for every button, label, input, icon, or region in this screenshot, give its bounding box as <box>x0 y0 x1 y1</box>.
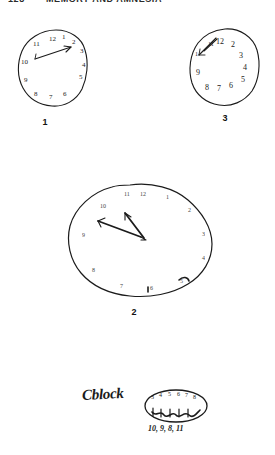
clock2-num-6: 6 <box>150 285 153 291</box>
clock-drawing-3: 12 2 3 4 5 6 7 8 9 1 11 <box>183 22 269 118</box>
clock3-num-5: 5 <box>241 75 245 84</box>
clock2-num-10: 10 <box>100 203 106 209</box>
oval-num-3: 3 <box>151 394 154 400</box>
running-header: 128 MEMORY AND AMNESIA <box>8 0 208 6</box>
clock3-num-10: 1 <box>195 51 198 57</box>
clock1-num-7: 7 <box>49 93 53 101</box>
clock2-num-4: 4 <box>202 255 205 261</box>
clock-drawing-2: 12 11 10 9 8 7 6 5 4 3 2 1 <box>62 180 218 305</box>
clock1-num-11: 11 <box>33 40 40 48</box>
oval-num-8: 8 <box>193 394 196 400</box>
annotation-oval-clock: 3 4 5 6 7 8 <box>142 386 212 428</box>
clock2-num-3: 3 <box>202 231 205 237</box>
clock3-num-9: 9 <box>196 68 200 77</box>
clock3-num-7: 7 <box>217 84 221 93</box>
running-title: MEMORY AND AMNESIA <box>46 0 162 4</box>
clock1-num-3: 3 <box>80 47 84 55</box>
clock3-num-8: 8 <box>205 83 209 92</box>
clock2-num-2: 2 <box>188 207 191 213</box>
handwritten-word-cblock: Cblock <box>82 385 124 404</box>
clock3-num-4: 4 <box>243 63 247 72</box>
clock-drawing-1: 12 1 2 3 4 5 6 7 8 9 10 11 <box>12 22 98 118</box>
clock1-num-5: 5 <box>79 73 83 81</box>
clock2-num-7: 7 <box>120 283 123 289</box>
clock1-num-12: 12 <box>49 35 57 43</box>
clock2-num-1: 1 <box>166 194 169 200</box>
oval-num-6: 6 <box>177 391 180 397</box>
clock2-num-8: 8 <box>92 267 95 273</box>
oval-num-5: 5 <box>168 391 171 397</box>
clock1-num-6: 6 <box>63 90 67 98</box>
clock3-num-6: 6 <box>229 81 233 90</box>
oval-num-7: 7 <box>185 392 188 398</box>
clock1-num-2: 2 <box>72 38 76 46</box>
clock2-num-9: 9 <box>82 232 85 238</box>
clock3-num-3: 3 <box>239 51 243 60</box>
scanned-page: 128 MEMORY AND AMNESIA 12 1 2 3 4 5 6 7 … <box>0 0 275 455</box>
clock1-num-4: 4 <box>82 61 86 69</box>
clock3-num-12: 12 <box>216 37 224 46</box>
clock1-num-10: 10 <box>21 58 29 66</box>
oval-num-4: 4 <box>159 392 162 398</box>
clock2-num-11: 11 <box>124 191 130 197</box>
figure-label-3: 3 <box>215 113 235 123</box>
clock2-num-12: 12 <box>140 191 146 197</box>
page-number: 128 <box>8 0 25 4</box>
figure-label-1: 1 <box>35 117 55 127</box>
clock1-num-8: 8 <box>34 90 38 98</box>
clock3-num-11: 11 <box>208 41 214 47</box>
clock1-num-1: 1 <box>62 33 66 41</box>
clock1-num-9: 9 <box>24 76 28 84</box>
annotation-below-oval: 10, 9, 8, 11 <box>148 424 184 433</box>
figure-label-2: 2 <box>124 307 144 317</box>
clock3-num-2: 2 <box>231 40 235 49</box>
